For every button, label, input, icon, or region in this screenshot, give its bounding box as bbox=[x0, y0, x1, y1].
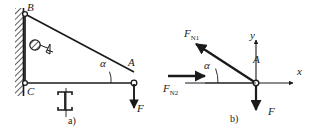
figure-root: B C A α F a) FN1 FN2 y x A α F b) bbox=[0, 0, 311, 134]
i-beam-section-symbol bbox=[58, 88, 72, 117]
label-point-c: C bbox=[27, 86, 34, 97]
label-force-fn1-main: F bbox=[184, 27, 191, 39]
roller-symbol bbox=[30, 40, 53, 54]
label-point-b: B bbox=[27, 2, 34, 13]
panel-b bbox=[168, 40, 293, 110]
member-BA bbox=[25, 14, 134, 72]
label-axis-x: x bbox=[297, 66, 302, 77]
caption-panel-a: a) bbox=[68, 116, 76, 126]
label-point-a-panel-b: A bbox=[253, 54, 260, 65]
figure-canvas bbox=[0, 0, 311, 134]
label-force-f-panel-b: F bbox=[268, 106, 275, 117]
label-force-fn2-subscript: N2 bbox=[170, 89, 178, 96]
label-axis-y: y bbox=[250, 30, 255, 41]
label-force-f-panel-a: F bbox=[137, 103, 144, 114]
angle-arc-a bbox=[110, 72, 112, 83]
angle-arc-b bbox=[216, 69, 218, 84]
label-angle-alpha-panel-b: α bbox=[204, 60, 210, 71]
label-point-a-panel-a: A bbox=[128, 57, 135, 68]
label-force-fn2-main: F bbox=[163, 82, 170, 94]
label-force-fn1-subscript: N1 bbox=[191, 34, 199, 41]
label-angle-alpha-panel-a: α bbox=[100, 58, 106, 69]
label-force-fn1: FN1 bbox=[184, 28, 199, 42]
label-force-fn2: FN2 bbox=[163, 83, 178, 97]
panel-a bbox=[15, 8, 137, 117]
caption-panel-b: b) bbox=[230, 114, 238, 124]
